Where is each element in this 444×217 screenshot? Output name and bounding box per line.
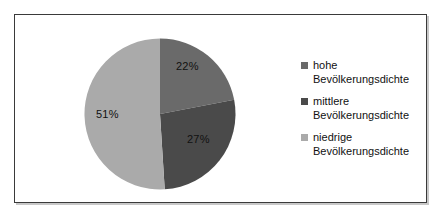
legend-item-label: mittlere Bevölkerungsdichte <box>313 94 409 122</box>
legend-swatch-icon <box>301 98 308 105</box>
legend-item-hohe[interactable]: hohe Bevölkerungsdichte <box>301 58 423 86</box>
pie-slice-label-mittlere: 27% <box>187 133 210 145</box>
legend-item-niedrige[interactable]: niedrige Bevölkerungsdichte <box>301 130 423 158</box>
pie-chart-plot-area: 22% 27% 51% hohe Bevölkerungsdichte mitt… <box>15 15 428 204</box>
legend-swatch-icon <box>301 134 308 141</box>
pie-slice-label-niedrige: 51% <box>96 108 119 120</box>
legend-item-label: hohe Bevölkerungsdichte <box>313 58 409 86</box>
chart-frame: 22% 27% 51% hohe Bevölkerungsdichte mitt… <box>14 14 427 203</box>
legend-item-mittlere[interactable]: mittlere Bevölkerungsdichte <box>301 94 423 122</box>
legend-swatch-icon <box>301 62 308 69</box>
pie-slice-label-hohe: 22% <box>176 60 199 72</box>
chart-legend: hohe Bevölkerungsdichte mittlere Bevölke… <box>301 58 423 166</box>
legend-item-label: niedrige Bevölkerungsdichte <box>313 130 409 158</box>
